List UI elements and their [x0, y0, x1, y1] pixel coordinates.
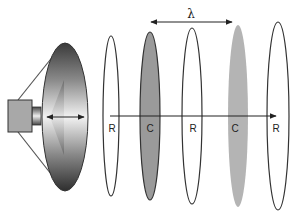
speaker-neck — [32, 107, 41, 125]
wavelength-label: λ — [187, 7, 195, 21]
label-compression-2: C — [231, 123, 238, 134]
label-rarefaction-3: R — [272, 123, 279, 134]
speaker-magnet-box — [8, 100, 32, 132]
label-rarefaction-1: R — [108, 123, 115, 134]
label-rarefaction-2: R — [189, 123, 196, 134]
sound-wave-diagram: λ R C R C R — [0, 0, 295, 213]
speaker — [8, 43, 88, 191]
label-compression-1: C — [146, 123, 153, 134]
